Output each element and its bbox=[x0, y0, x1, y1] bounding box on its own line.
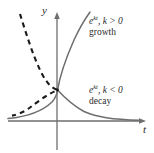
growth-expression: ekt, k > 0 bbox=[89, 16, 123, 26]
figure-canvas bbox=[0, 0, 154, 153]
common-intersection-point bbox=[56, 89, 59, 92]
growth-curve bbox=[8, 12, 90, 119]
decay-expression: ekt, k < 0 bbox=[89, 85, 123, 95]
y-axis-label: y bbox=[42, 5, 47, 16]
decay-annotation: ekt, k < 0 decay bbox=[89, 85, 123, 107]
growth-annotation: ekt, k > 0 growth bbox=[89, 16, 123, 38]
y-axis-arrowhead bbox=[54, 12, 60, 19]
exponential-growth-decay-figure: y t ekt, k > 0 growth ekt, k < 0 decay bbox=[0, 0, 154, 153]
dashed-decay-curve bbox=[12, 14, 58, 116]
growth-condition: , k > 0 bbox=[98, 16, 123, 26]
decay-condition: , k < 0 bbox=[98, 85, 123, 95]
t-axis-label: t bbox=[143, 124, 146, 135]
decay-word: decay bbox=[89, 96, 123, 107]
growth-word: growth bbox=[89, 27, 123, 38]
